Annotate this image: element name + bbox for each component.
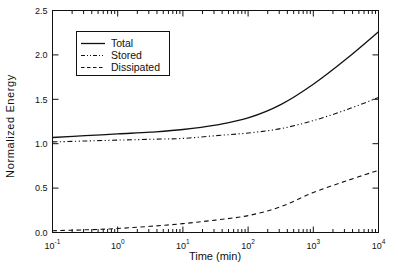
legend-label-dissipated: Dissipated [111,61,160,73]
svg-text:101: 101 [176,238,190,251]
svg-text:1.5: 1.5 [35,95,48,105]
legend-item-total: Total [81,37,169,49]
svg-text:103: 103 [306,238,320,251]
svg-text:104: 104 [372,238,386,251]
total-line-sample-icon [81,38,105,49]
svg-text:1.0: 1.0 [35,139,48,149]
dissipated-line-sample-icon [81,62,105,73]
plot-area: 0.00.51.01.52.02.510-1100101102103104 [0,0,398,276]
svg-text:2.5: 2.5 [35,6,48,16]
legend: Total Stored Dissipated [76,31,170,76]
svg-text:100: 100 [111,238,125,251]
legend-label-stored: Stored [111,49,142,61]
svg-text:10-1: 10-1 [45,238,61,251]
svg-text:0.5: 0.5 [35,183,48,193]
chart-figure: 0.00.51.01.52.02.510-1100101102103104 No… [0,0,398,276]
x-axis-label: Time (min) [52,250,378,262]
svg-text:102: 102 [241,238,255,251]
legend-label-total: Total [111,37,133,49]
svg-text:0.0: 0.0 [35,228,48,238]
svg-text:2.0: 2.0 [35,50,48,60]
legend-item-dissipated: Dissipated [81,61,169,73]
legend-item-stored: Stored [81,49,169,61]
stored-line-sample-icon [81,50,105,61]
y-axis-label: Normalized Energy [4,74,16,178]
